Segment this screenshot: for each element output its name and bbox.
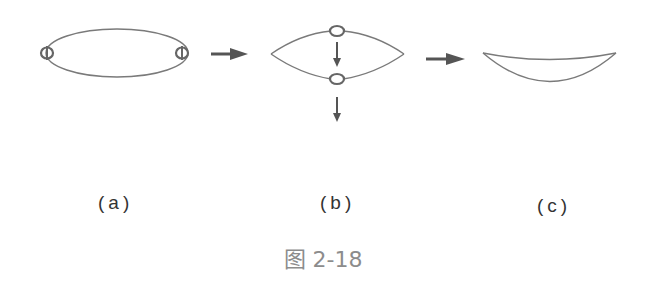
- panel-c-label: (c): [537, 195, 571, 217]
- panel-a-label: (a): [98, 192, 133, 214]
- ring-left-icon: [41, 46, 53, 60]
- panel-b-label: (b): [320, 192, 355, 214]
- arrow-down-icon: [333, 42, 341, 67]
- arrow-down-icon: [333, 97, 341, 122]
- panel-b-lens: [271, 26, 404, 122]
- ring-right-icon: [176, 46, 188, 60]
- ring-bottom-icon: [330, 74, 344, 84]
- arrow-right-icon: [426, 53, 465, 65]
- figure-diagram: [0, 0, 646, 170]
- arrow-right-icon: [211, 48, 248, 60]
- ring-top-icon: [330, 26, 344, 36]
- panel-a-ellipse: [41, 29, 188, 77]
- panel-c-crescent: [483, 53, 616, 82]
- figure-caption: 图 2-18: [0, 241, 646, 273]
